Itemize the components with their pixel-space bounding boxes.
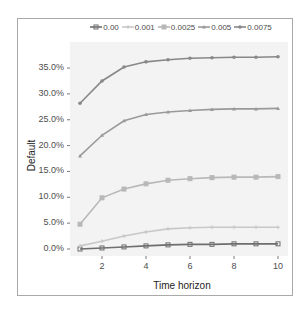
y-tick-label: 5.0% <box>14 217 64 227</box>
x-tick-label: 6 <box>180 261 200 271</box>
x-tick-label: 10 <box>268 261 288 271</box>
y-axis-label: Default <box>26 131 37 181</box>
y-tick-label: 0.0% <box>14 243 64 253</box>
x-tick-label: 8 <box>224 261 244 271</box>
y-tick-label: 10.0% <box>14 191 64 201</box>
y-tick-label: 30.0% <box>14 88 64 98</box>
x-tick-label: 4 <box>136 261 156 271</box>
panel-background <box>70 42 288 256</box>
y-tick-label: 15.0% <box>14 165 64 175</box>
y-tick-label: 20.0% <box>14 140 64 150</box>
x-axis-label: Time horizon <box>122 280 242 291</box>
y-tick-label: 25.0% <box>14 114 64 124</box>
y-tick-label: 35.0% <box>14 62 64 72</box>
x-tick-label: 2 <box>92 261 112 271</box>
